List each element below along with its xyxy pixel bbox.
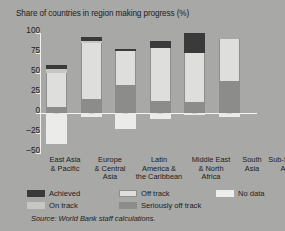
bar-segment bbox=[115, 49, 136, 51]
legend-label-no-data: No data bbox=[238, 189, 265, 198]
legend-item-no-data[interactable]: No data bbox=[216, 189, 265, 198]
x-tick bbox=[227, 113, 232, 114]
legend-swatch-seriously-off-track bbox=[119, 202, 137, 209]
x-axis-category-label: Sub-SaharanAfrica bbox=[265, 156, 285, 173]
bar-segment bbox=[115, 113, 136, 129]
x-axis-category-label-line: & Pacific bbox=[42, 165, 88, 174]
y-tick-label-minus-25: –25 bbox=[26, 127, 40, 135]
x-axis-category-label-line: Africa bbox=[265, 165, 285, 174]
x-axis-category-label: SouthAsia bbox=[235, 156, 269, 173]
bar-segment bbox=[81, 43, 102, 99]
bar-segment bbox=[150, 101, 171, 113]
bar-group[interactable] bbox=[46, 33, 67, 153]
x-tick bbox=[158, 113, 163, 114]
bar-group[interactable] bbox=[184, 33, 205, 153]
y-tick-minus-25 bbox=[36, 133, 40, 134]
y-tick-label-25: 25 bbox=[31, 87, 40, 95]
bar-group[interactable] bbox=[219, 33, 240, 153]
x-axis-category-label: Europe& CentralAsia bbox=[88, 156, 132, 182]
bar-segment bbox=[81, 37, 102, 41]
x-axis-category-label: East Asia& Pacific bbox=[42, 156, 88, 173]
y-tick-75 bbox=[36, 53, 40, 54]
x-axis-category-label-line: Africa bbox=[186, 173, 236, 182]
x-tick bbox=[54, 113, 59, 114]
bar-segment bbox=[115, 85, 136, 114]
legend-label-on-track: On track bbox=[49, 201, 78, 210]
y-tick-label-minus-50: –50 bbox=[26, 147, 40, 155]
chart-legend: Achieved On track Off track Seriously of… bbox=[27, 189, 279, 211]
bar-segment bbox=[150, 41, 171, 47]
bar-group[interactable] bbox=[81, 33, 102, 153]
bar-segment bbox=[81, 99, 102, 113]
legend-item-achieved[interactable]: Achieved bbox=[27, 189, 80, 198]
chart-title: Share of countries in region making prog… bbox=[16, 9, 189, 18]
bar-segment bbox=[46, 113, 67, 143]
bar-group[interactable] bbox=[150, 33, 171, 153]
y-tick-100 bbox=[36, 33, 40, 34]
x-axis-category-labels: East Asia& PacificEurope& CentralAsiaLat… bbox=[36, 156, 285, 186]
bar-segment bbox=[81, 41, 102, 43]
legend-swatch-no-data bbox=[216, 190, 234, 197]
bar-segment bbox=[81, 113, 102, 117]
legend-label-seriously-off-track: Seriously off track bbox=[141, 201, 201, 210]
chart-figure: Share of countries in region making prog… bbox=[0, 0, 285, 231]
bar-segment bbox=[150, 48, 171, 102]
chart-source-note: Source: World Bank staff calculations. bbox=[31, 214, 155, 223]
y-tick-minus-50 bbox=[36, 153, 40, 154]
x-tick bbox=[89, 113, 94, 114]
legend-item-off-track[interactable]: Off track bbox=[119, 189, 170, 198]
legend-item-on-track[interactable]: On track bbox=[27, 201, 78, 210]
bar-segment bbox=[219, 39, 240, 81]
y-tick-50 bbox=[36, 73, 40, 74]
legend-swatch-on-track bbox=[27, 202, 45, 209]
legend-label-off-track: Off track bbox=[141, 189, 170, 198]
bar-segment bbox=[46, 69, 67, 74]
bar-segment bbox=[184, 53, 205, 103]
x-axis-category-label: Middle East& NorthAfrica bbox=[186, 156, 236, 182]
bar-segment bbox=[184, 33, 205, 52]
legend-item-seriously-off-track[interactable]: Seriously off track bbox=[119, 201, 201, 210]
legend-label-achieved: Achieved bbox=[49, 189, 80, 198]
bar-segment bbox=[46, 65, 67, 69]
x-axis-category-label-line: Asia bbox=[88, 173, 132, 182]
y-tick-label-100: 100 bbox=[26, 27, 40, 35]
bar-segment bbox=[150, 113, 171, 119]
x-axis-category-label: LatinAmerica &the Caribbean bbox=[132, 156, 186, 182]
bar-group[interactable] bbox=[115, 33, 136, 153]
y-tick-label-50: 50 bbox=[31, 67, 40, 75]
bar-segment bbox=[46, 73, 67, 107]
x-axis-category-label-line: Asia bbox=[235, 165, 269, 174]
x-tick bbox=[123, 113, 128, 114]
bar-segment bbox=[115, 51, 136, 85]
plot-area bbox=[42, 33, 257, 153]
legend-swatch-achieved bbox=[27, 190, 45, 197]
legend-swatch-off-track bbox=[119, 190, 137, 197]
x-tick bbox=[192, 113, 197, 114]
x-axis-category-label-line: the Caribbean bbox=[132, 173, 186, 182]
bar-segment bbox=[219, 81, 240, 113]
y-tick-25 bbox=[36, 93, 40, 94]
y-tick-label-75: 75 bbox=[31, 47, 40, 55]
